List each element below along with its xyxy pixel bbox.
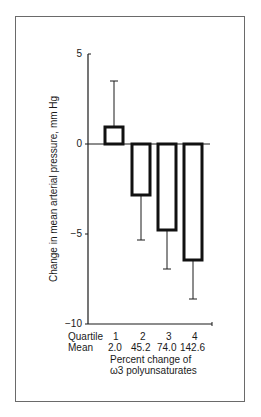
- mean-2-label: 45.2: [131, 342, 150, 353]
- quartile-4-label: 4: [192, 331, 198, 342]
- y-axis-label: Change in mean arterial pressure, mm Hg: [48, 96, 59, 282]
- x-axis-label-line-2: ω3 polyunsaturates: [110, 365, 197, 376]
- mean-3-label: 74.0: [157, 342, 176, 353]
- bar-quartile-2: [132, 144, 150, 240]
- quartile-2-label: 2: [140, 331, 146, 342]
- y-tick-minus-10: −10: [65, 318, 82, 329]
- bar-quartile-4: [184, 144, 202, 299]
- bar-quartile-1: [105, 81, 123, 144]
- mean-1-label: 2.0: [108, 342, 122, 353]
- y-tick-0: 0: [76, 138, 82, 149]
- x-axis-label-line-1: Percent change of: [110, 354, 191, 365]
- y-tick-minus-5: −5: [71, 228, 83, 239]
- bar-quartile-3: [158, 144, 176, 269]
- quartile-row-label: Quartile: [68, 331, 103, 342]
- mean-row-label: Mean: [68, 342, 93, 353]
- quartile-3-label: 3: [166, 331, 172, 342]
- y-tick-5: 5: [76, 48, 82, 59]
- mean-4-label: 142.6: [180, 342, 205, 353]
- quartile-1-label: 1: [113, 331, 119, 342]
